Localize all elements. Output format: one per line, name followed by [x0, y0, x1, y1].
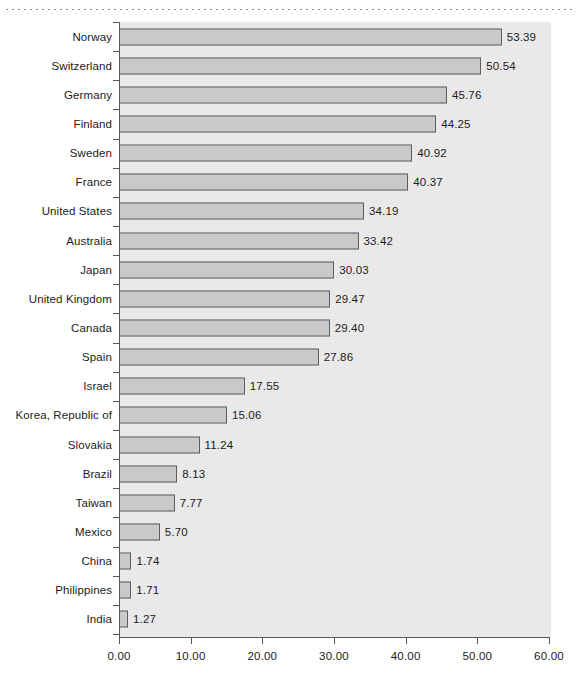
bar-row: Sweden40.92: [0, 139, 580, 168]
bar: [119, 553, 131, 570]
bar: [119, 319, 330, 336]
bar-row: Slovakia11.24: [0, 430, 580, 459]
x-axis-tick: [191, 637, 192, 644]
bar-row: Spain27.86: [0, 343, 580, 372]
bar-row: Switzerland50.54: [0, 51, 580, 80]
bar-row: Brazil8.13: [0, 459, 580, 488]
category-label: India: [87, 613, 112, 625]
bar-value-label: 33.42: [364, 235, 394, 247]
bar-row: France40.37: [0, 168, 580, 197]
bar-row: Japan30.03: [0, 255, 580, 284]
x-axis-tick-label: 0.00: [107, 650, 130, 662]
bar: [119, 57, 481, 74]
x-axis-tick: [477, 637, 478, 644]
category-label: Japan: [80, 264, 112, 276]
bar-value-label: 40.92: [417, 147, 447, 159]
bar-value-label: 30.03: [339, 264, 369, 276]
x-axis-tick: [262, 637, 263, 644]
x-axis-tick-label: 50.00: [462, 650, 492, 662]
bar-row: Philippines1.71: [0, 576, 580, 605]
bar-value-label: 1.27: [133, 613, 156, 625]
bar-value-label: 27.86: [324, 351, 354, 363]
bar-row: Korea, Republic of15.06: [0, 401, 580, 430]
x-axis-tick: [119, 637, 120, 644]
x-axis-tick-label: 40.00: [391, 650, 421, 662]
bar-row: Taiwan7.77: [0, 488, 580, 517]
x-axis-tick-label: 60.00: [534, 650, 564, 662]
bar-value-label: 40.37: [413, 176, 443, 188]
category-label: Spain: [82, 351, 112, 363]
bar: [119, 611, 128, 628]
x-axis-tick-label: 10.00: [176, 650, 206, 662]
category-label: Finland: [74, 118, 112, 130]
bar-row: Australia33.42: [0, 226, 580, 255]
y-axis-line: [119, 22, 120, 637]
bar-row: Mexico5.70: [0, 517, 580, 546]
bar-row: Norway53.39: [0, 22, 580, 51]
bar-row: Finland44.25: [0, 109, 580, 138]
bar-value-label: 5.70: [165, 526, 188, 538]
category-label: Brazil: [83, 468, 112, 480]
bar-rows-container: Norway53.39Switzerland50.54Germany45.76F…: [0, 22, 580, 634]
bar-value-label: 7.77: [180, 497, 203, 509]
category-label: Mexico: [75, 526, 112, 538]
bar-row: Israel17.55: [0, 372, 580, 401]
bar: [119, 378, 245, 395]
bar-value-label: 15.06: [232, 409, 262, 421]
bar: [119, 349, 319, 366]
bar-value-label: 34.19: [369, 205, 399, 217]
category-label: Taiwan: [76, 497, 112, 509]
x-axis-tick: [549, 637, 550, 644]
x-axis-tick: [334, 637, 335, 644]
category-label: Norway: [72, 31, 112, 43]
bar: [119, 436, 200, 453]
bar-value-label: 11.24: [205, 439, 234, 451]
bar-row: United States34.19: [0, 197, 580, 226]
bar-value-label: 1.74: [136, 555, 159, 567]
bar: [119, 523, 160, 540]
bar-row: Canada29.40: [0, 313, 580, 342]
category-label: Australia: [66, 235, 112, 247]
category-label: Sweden: [70, 147, 112, 159]
bar: [119, 494, 175, 511]
category-label: United Kingdom: [29, 293, 112, 305]
bar-chart-figure: Norway53.39Switzerland50.54Germany45.76F…: [0, 0, 580, 683]
bar: [119, 203, 364, 220]
category-label: China: [81, 555, 112, 567]
category-label: Switzerland: [51, 60, 112, 72]
caption-partial: [18, 674, 418, 683]
category-label: Korea, Republic of: [16, 409, 112, 421]
bar-value-label: 50.54: [486, 60, 516, 72]
bar: [119, 86, 447, 103]
category-label: Slovakia: [68, 439, 112, 451]
bar: [119, 115, 436, 132]
category-label: Germany: [64, 89, 112, 101]
bar-value-label: 45.76: [452, 89, 482, 101]
bar: [119, 582, 131, 599]
category-label: United States: [42, 205, 112, 217]
bar: [119, 232, 359, 249]
dotted-rule-decoration: [4, 8, 576, 11]
bar-row: India1.27: [0, 605, 580, 634]
bar-value-label: 1.71: [136, 584, 159, 596]
x-axis-tick-label: 20.00: [247, 650, 277, 662]
bar-row: China1.74: [0, 547, 580, 576]
bar: [119, 28, 502, 45]
bar: [119, 465, 177, 482]
x-axis-tick-label: 30.00: [319, 650, 349, 662]
bar: [119, 174, 408, 191]
category-label: Canada: [71, 322, 112, 334]
x-axis-tick: [406, 637, 407, 644]
category-label: Philippines: [55, 584, 112, 596]
bar-row: Germany45.76: [0, 80, 580, 109]
category-label: Israel: [83, 380, 112, 392]
category-label: France: [76, 176, 112, 188]
bar: [119, 145, 412, 162]
bar: [119, 261, 334, 278]
bar: [119, 407, 227, 424]
bar-value-label: 17.55: [250, 380, 280, 392]
bar-value-label: 29.47: [335, 293, 365, 305]
bar-row: United Kingdom29.47: [0, 284, 580, 313]
bar: [119, 290, 330, 307]
bar-value-label: 53.39: [507, 31, 537, 43]
